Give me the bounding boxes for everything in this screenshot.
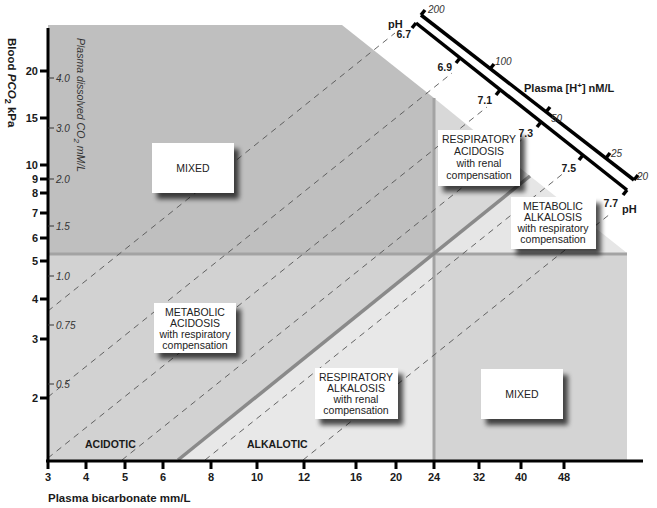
y-tick-label: 9 — [32, 173, 38, 185]
ph-label-bottom: pH — [622, 203, 637, 215]
y2-tick-label: 1.0 — [56, 271, 70, 282]
ph-tick-label: 7.3 — [518, 127, 533, 139]
h-tick-label: 20 — [636, 171, 649, 182]
svg-text:ACIDOSIS: ACIDOSIS — [454, 145, 504, 157]
y-tick-label: 5 — [32, 255, 38, 267]
svg-text:compensation: compensation — [520, 233, 586, 245]
h-tick-label: 100 — [495, 56, 512, 67]
svg-text:compensation: compensation — [446, 169, 512, 181]
x-tick-label: 16 — [350, 471, 362, 483]
y-tick-label: 8 — [32, 187, 38, 199]
h-tick-label: 200 — [427, 4, 445, 15]
zone-label-alkalotic: ALKALOTIC — [247, 438, 308, 450]
y2-tick-label: 3.0 — [56, 123, 70, 134]
y2-tick-label: 2.0 — [55, 174, 70, 185]
y-tick-label: 7 — [32, 207, 38, 219]
svg-text:with renal: with renal — [456, 157, 502, 169]
x-tick-label: 40 — [515, 471, 527, 483]
y-tick-label: 15 — [26, 112, 38, 124]
y-tick-label: 2 — [32, 392, 38, 404]
box-respiratory-alkalosis: RESPIRATORY ALKALOSIS with renal compens… — [315, 368, 398, 419]
y2-tick-label: 4.0 — [56, 73, 70, 84]
ph-label-top: pH — [388, 18, 403, 30]
h-tick-label: 25 — [610, 148, 623, 159]
x-tick-label: 6 — [160, 471, 166, 483]
y-tick-label: 10 — [26, 159, 38, 171]
x-tick-label: 10 — [251, 471, 263, 483]
svg-text:RESPIRATORY: RESPIRATORY — [442, 133, 516, 145]
x-tick-label: 48 — [558, 471, 570, 483]
y2-tick-label: 0.75 — [56, 320, 76, 331]
y-tick-label: 3 — [32, 333, 38, 345]
y-tick-label: 4 — [32, 293, 39, 305]
box-mixed-upper: MIXED — [152, 143, 234, 193]
ph-tick-label: 7.1 — [477, 94, 492, 106]
x-tick-label: 24 — [428, 471, 441, 483]
zone-label-acidotic: ACIDOTIC — [85, 438, 136, 450]
svg-text:compensation: compensation — [162, 339, 228, 351]
box-mixed-lower: MIXED — [481, 369, 563, 419]
h-tick-label: 50 — [551, 113, 563, 124]
x-tick-label: 32 — [473, 471, 485, 483]
x-tick-label: 12 — [298, 471, 310, 483]
x-tick-label: 4 — [83, 471, 90, 483]
ph-tick-label: 7.5 — [561, 162, 576, 174]
svg-text:MIXED: MIXED — [505, 388, 539, 400]
h-scale-label: Plasma [H+] nM/L — [524, 81, 615, 94]
y-axis-label: Blood PCO2 kPa — [3, 38, 18, 128]
ph-tick-label: 7.7 — [603, 197, 618, 209]
y2-tick-label: 0.5 — [56, 379, 70, 390]
x-tick-label: 5 — [122, 471, 128, 483]
box-metabolic-acidosis: METABOLIC ACIDOSIS with respiratory comp… — [154, 303, 236, 353]
svg-text:MIXED: MIXED — [176, 162, 210, 174]
x-axis-label: Plasma bicarbonate mm/L — [48, 492, 191, 504]
box-metabolic-alkalosis: METABOLIC ALKALOSIS with respiratory com… — [511, 197, 596, 249]
y-tick-label: 6 — [32, 232, 38, 244]
ph-tick-label: 6.9 — [437, 61, 452, 73]
y-tick-label: 20 — [26, 65, 38, 77]
svg-text:compensation: compensation — [323, 404, 389, 416]
x-tick-label: 8 — [208, 471, 214, 483]
region-upper-left — [48, 25, 434, 253]
acid-base-nomogram: 20 15 10 9 8 7 6 5 4 3 2 4.0 3.0 2.0 1.5… — [0, 0, 657, 508]
box-respiratory-acidosis: RESPIRATORY ACIDOSIS with renal compensa… — [438, 130, 520, 186]
x-tick-label: 3 — [45, 471, 51, 483]
x-tick-label: 20 — [390, 471, 402, 483]
y2-tick-label: 1.5 — [56, 221, 70, 232]
region-lower-right — [434, 253, 627, 460]
